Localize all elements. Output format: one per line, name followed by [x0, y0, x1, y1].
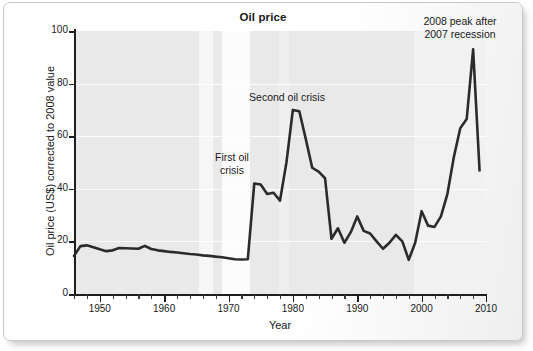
x-tick-minor-1946	[74, 295, 75, 299]
y-tick-mark-20	[69, 241, 74, 243]
y-tick-mark-100	[69, 31, 74, 33]
annotation-2008-peak: 2008 peak after 2007 recession	[390, 15, 523, 40]
gridline-80	[74, 84, 486, 85]
x-tick-minor-1974	[254, 295, 255, 299]
gridline-60	[74, 136, 486, 137]
y-tick-mark-80	[69, 84, 74, 86]
y-tick-label-100: 100	[8, 24, 68, 35]
x-tick-major-2000	[422, 295, 423, 302]
x-tick-minor-1998	[409, 295, 410, 299]
y-axis-line	[74, 29, 76, 296]
y-axis-title: Oil price (US$) corrected to 2008 value	[44, 21, 56, 301]
x-axis-title: Year	[74, 319, 486, 331]
x-tick-minor-1948	[87, 295, 88, 299]
x-tick-label-1950: 1950	[80, 303, 120, 314]
y-tick-label-0: 0	[8, 287, 68, 298]
y-tick-mark-60	[69, 136, 74, 138]
x-tick-major-1970	[229, 295, 230, 302]
x-tick-major-2010	[486, 295, 487, 302]
x-tick-minor-1978	[280, 295, 281, 299]
x-tick-minor-2002	[435, 295, 436, 299]
x-tick-minor-2004	[447, 295, 448, 299]
x-tick-minor-1994	[383, 295, 384, 299]
x-tick-minor-1966	[203, 295, 204, 299]
y-tick-label-80: 80	[8, 77, 68, 88]
x-tick-minor-1976	[267, 295, 268, 299]
annotation-second-oil-crisis: Second oil crisis	[221, 91, 353, 104]
x-tick-label-1960: 1960	[144, 303, 184, 314]
x-tick-label-2000: 2000	[402, 303, 442, 314]
x-tick-minor-1954	[126, 295, 127, 299]
x-tick-minor-1988	[344, 295, 345, 299]
x-tick-major-1960	[164, 295, 165, 302]
y-tick-label-20: 20	[8, 234, 68, 245]
scanned-page-card: Oil price 100 80 60 40 20	[3, 2, 523, 341]
x-tick-minor-1958	[151, 295, 152, 299]
x-tick-minor-1984	[319, 295, 320, 299]
x-tick-minor-1956	[138, 295, 139, 299]
scan-band-4	[414, 31, 486, 294]
x-tick-minor-1982	[306, 295, 307, 299]
plot-area-background	[74, 31, 486, 294]
y-tick-label-40: 40	[8, 182, 68, 193]
x-tick-label-1990: 1990	[337, 303, 377, 314]
x-tick-minor-2006	[460, 295, 461, 299]
gridline-20	[74, 241, 486, 242]
x-tick-minor-1986	[332, 295, 333, 299]
x-tick-minor-1968	[216, 295, 217, 299]
x-tick-minor-1992	[370, 295, 371, 299]
x-tick-major-1990	[357, 295, 358, 302]
annotation-first-oil-crisis: First oil crisis	[200, 151, 264, 176]
x-tick-minor-1972	[241, 295, 242, 299]
x-tick-major-1980	[293, 295, 294, 302]
y-tick-mark-40	[69, 189, 74, 191]
y-tick-label-60: 60	[8, 129, 68, 140]
y-axis-ticks: 100 80 60 40 20 0	[4, 3, 68, 341]
x-tick-label-1970: 1970	[209, 303, 249, 314]
x-tick-minor-1964	[190, 295, 191, 299]
gridline-40	[74, 189, 486, 190]
x-tick-minor-1952	[113, 295, 114, 299]
x-tick-minor-1996	[396, 295, 397, 299]
x-tick-label-2010: 2010	[466, 303, 506, 314]
x-tick-minor-2008	[473, 295, 474, 299]
chart-page: Oil price 100 80 60 40 20	[0, 0, 533, 351]
x-tick-major-1950	[100, 295, 101, 302]
x-tick-minor-1962	[177, 295, 178, 299]
scan-band-3	[279, 31, 289, 294]
x-tick-label-1980: 1980	[273, 303, 313, 314]
